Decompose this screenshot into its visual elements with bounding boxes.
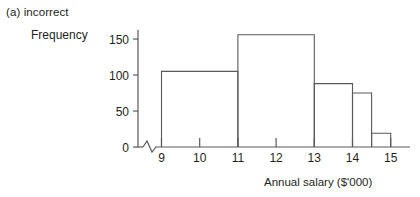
histogram-bars <box>162 35 391 147</box>
histogram-bar <box>238 35 314 147</box>
histogram-bar <box>314 84 352 147</box>
x-tick-label: 15 <box>384 151 398 165</box>
y-tick-label: 100 <box>109 69 129 83</box>
y-tick-label: 50 <box>116 105 130 119</box>
x-axis-ticks: 9101112131415 <box>158 138 398 165</box>
y-tick-label: 150 <box>109 33 129 47</box>
histogram-bar <box>162 71 238 147</box>
x-tick-label: 10 <box>193 151 207 165</box>
x-tick-label: 9 <box>158 151 165 165</box>
axis-lines <box>138 30 410 152</box>
y-tick-label: 0 <box>122 141 129 155</box>
histogram-plot: 050100150 9101112131415 <box>0 0 420 197</box>
histogram-bar <box>372 133 391 147</box>
histogram-figure: (a) incorrect Frequency Annual salary ($… <box>0 0 420 197</box>
x-tick-label: 14 <box>346 151 360 165</box>
x-tick-label: 13 <box>308 151 322 165</box>
x-tick-label: 12 <box>269 151 283 165</box>
axis-break-icon <box>143 141 156 152</box>
histogram-bar <box>353 93 372 147</box>
y-axis-ticks: 050100150 <box>109 33 138 155</box>
x-tick-label: 11 <box>232 151 245 165</box>
